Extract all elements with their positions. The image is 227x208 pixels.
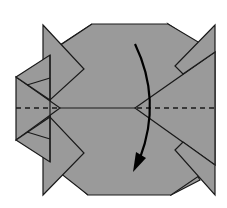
origami-diagram bbox=[0, 0, 227, 208]
